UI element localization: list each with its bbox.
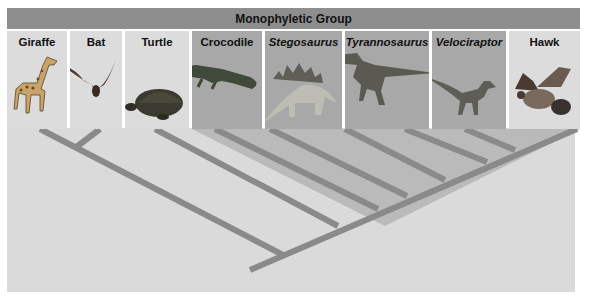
monophyletic-group-title: Monophyletic Group [235,12,352,26]
turtle-icon [125,51,189,129]
taxon-label: Stegosaurus [265,36,342,48]
taxon-panel-tyrannosaurus: Tyrannosaurus [345,31,429,129]
taxon-label: Tyrannosaurus [345,36,429,48]
bat-icon [70,51,122,129]
taxon-panel-hawk: Hawk [509,31,580,129]
taxon-panel-bat: Bat [70,31,122,129]
taxon-label: Bat [70,36,122,48]
tyrannosaurus-icon [345,51,429,129]
phylogenetic-tree-figure: Monophyletic Group Giraffe Bat Turtle Cr… [0,0,591,299]
crocodile-icon [192,51,262,129]
branch-bat [75,129,100,148]
taxon-panel-giraffe: Giraffe [7,31,67,129]
taxon-label: Crocodile [192,36,262,48]
stegosaurus-icon [265,51,342,129]
monophyletic-group-header: Monophyletic Group [7,8,580,29]
taxon-label: Velociraptor [432,36,506,48]
taxon-label: Hawk [509,36,580,48]
taxon-panel-velociraptor: Velociraptor [432,31,506,129]
taxon-panel-turtle: Turtle [125,31,189,129]
taxon-panel-crocodile: Crocodile [192,31,262,129]
hawk-icon [509,51,580,129]
giraffe-icon [7,51,67,129]
velociraptor-icon [432,51,506,129]
taxon-panel-stegosaurus: Stegosaurus [265,31,342,129]
taxon-label: Turtle [125,36,189,48]
taxon-label: Giraffe [7,36,67,48]
